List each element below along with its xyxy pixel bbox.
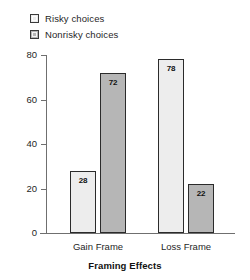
y-tick-label-80: 80 bbox=[26, 49, 37, 60]
legend-swatch-nonrisky-choices bbox=[30, 30, 39, 39]
chart-legend: Risky choices Nonrisky choices bbox=[30, 12, 210, 44]
bar-chart-figure: Risky choices Nonrisky choices 806040200… bbox=[0, 0, 250, 280]
x-axis-line bbox=[40, 233, 235, 234]
bar-value-label: 22 bbox=[189, 189, 213, 198]
y-tick-0: 0 bbox=[41, 233, 46, 234]
x-axis-category-gain-frame: Gain Frame bbox=[73, 241, 123, 252]
legend-label-nonrisky-choices: Nonrisky choices bbox=[45, 29, 118, 40]
y-tick-label-0: 0 bbox=[32, 227, 37, 238]
y-tick-label-40: 40 bbox=[26, 138, 37, 149]
x-axis-title: Framing Effects bbox=[0, 260, 250, 271]
bar-loss-frame-risky-choices: 78 bbox=[158, 59, 184, 233]
bars-layer: 28727822 bbox=[46, 55, 231, 233]
bar-loss-frame-nonrisky-choices: 22 bbox=[188, 184, 214, 233]
legend-item-nonrisky-choices: Nonrisky choices bbox=[30, 28, 210, 41]
bar-value-label: 78 bbox=[159, 64, 183, 73]
legend-label-risky-choices: Risky choices bbox=[45, 13, 104, 24]
bar-value-label: 28 bbox=[71, 176, 95, 185]
y-tick-label-20: 20 bbox=[26, 183, 37, 194]
plot-area: 806040200 28727822 Gain Frame Loss Frame bbox=[46, 55, 231, 233]
x-axis-category-loss-frame: Loss Frame bbox=[161, 241, 211, 252]
y-tick-label-60: 60 bbox=[26, 94, 37, 105]
legend-swatch-risky-choices bbox=[30, 14, 39, 23]
bar-gain-frame-risky-choices: 28 bbox=[70, 171, 96, 233]
legend-item-risky-choices: Risky choices bbox=[30, 12, 210, 25]
bar-value-label: 72 bbox=[101, 78, 125, 87]
bar-gain-frame-nonrisky-choices: 72 bbox=[100, 73, 126, 233]
